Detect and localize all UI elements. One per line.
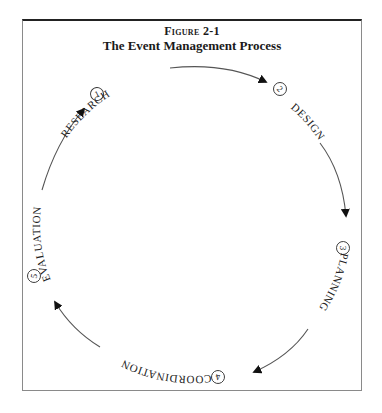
svg-text:2: 2 (275, 84, 285, 94)
arrow-research-to-design (170, 67, 266, 82)
stage-label: EVALUATION (30, 206, 53, 284)
stage-number-badge: 3 (336, 241, 350, 255)
stage-label: PLANNING (317, 252, 351, 314)
arrow-planning-to-coordination (254, 329, 308, 372)
stage-number-badge: 2 (271, 80, 289, 98)
svg-text:3: 3 (338, 245, 348, 251)
stage-label: RESEARCH (58, 87, 112, 140)
stage-label: DESIGN (289, 101, 328, 142)
stage-research: 1 RESEARCH (58, 85, 112, 139)
svg-text:4: 4 (214, 372, 221, 383)
stage-planning: 3 PLANNING (317, 241, 351, 314)
event-management-process-figure: Figure 2-1 The Event Management Process (0, 0, 382, 413)
stage-number-badge: 4 (210, 369, 225, 384)
process-cycle-diagram: 1 RESEARCH 2 DESIGN 3 PLANNING (0, 0, 382, 413)
arrow-design-to-planning (320, 143, 346, 216)
stage-evaluation: 5 EVALUATION (26, 206, 52, 284)
stage-label: COORDINATION (119, 358, 212, 386)
arrow-coordination-to-evaluation (55, 302, 100, 347)
stage-design: 2 DESIGN (271, 80, 328, 142)
stage-coordination: 4 COORDINATION (119, 358, 226, 386)
